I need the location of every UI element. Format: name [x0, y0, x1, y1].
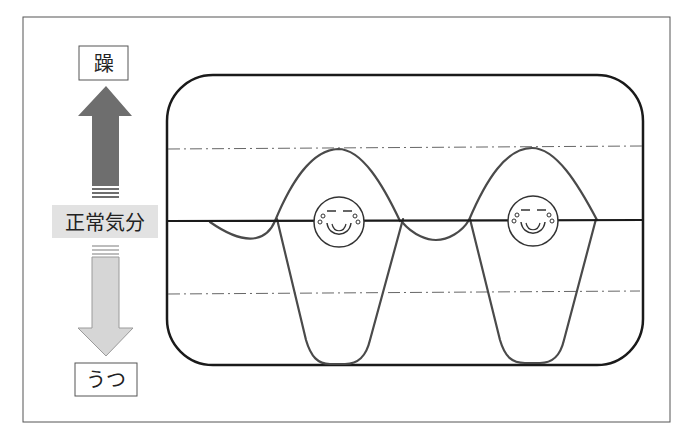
smiley-face-icon: [508, 196, 558, 246]
mania-label: 躁: [79, 46, 128, 80]
mood-cycle-diagram: 躁 正常気分 うつ: [0, 0, 693, 439]
mania-label-text: 躁: [94, 52, 114, 76]
depression-label-text: うつ: [86, 368, 126, 392]
baseline: [168, 220, 642, 221]
smiley-face-icon: [314, 197, 364, 247]
normal-mood-label-text: 正常気分: [65, 211, 145, 235]
depression-label: うつ: [75, 363, 137, 396]
down-arrow-icon: [78, 245, 133, 356]
normal-mood-label: 正常気分: [52, 205, 158, 238]
up-arrow-icon: [78, 86, 132, 198]
